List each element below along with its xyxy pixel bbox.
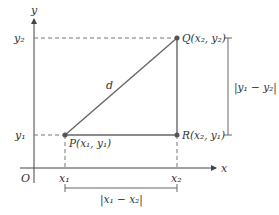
x1-tick-label: x₁ [59,172,70,185]
point-r [175,133,180,138]
distance-diagram: y x O y₂ y₁ x₁ x₂ P(x₁, y₁) Q(x₂, y₂) R(… [0,0,279,215]
y1-tick-label: y₁ [14,129,26,142]
point-q-label: Q(x₂, y₂) [182,32,226,45]
point-r-label: R(x₂, y₁) [181,129,225,141]
origin-label: O [21,172,30,185]
x2-tick-label: x₂ [171,172,182,185]
horizontal-distance-label: |x₁ − x₂| [100,193,143,207]
hypotenuse-pq [65,38,177,135]
hypotenuse-label: d [106,79,113,92]
y-axis-label: y [30,4,38,17]
point-q [175,36,180,41]
y2-tick-label: y₂ [13,32,25,45]
point-p-label: P(x₁, y₁) [68,137,111,149]
vertical-distance-label: |y₁ − y₂| [234,81,277,95]
point-p [63,133,68,138]
x-axis-label: x [221,162,228,175]
